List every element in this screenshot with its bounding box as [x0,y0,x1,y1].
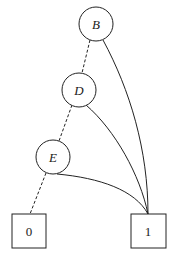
edge-B-D-dashed [82,40,90,73]
terminal-1-label: 1 [145,224,152,239]
edge-D-1-solid [86,105,148,214]
node-D-label: D [73,83,84,98]
node-B: B [79,7,113,41]
edge-E-0-dashed [30,173,46,214]
edge-D-E-dashed [59,105,72,141]
node-E-label: E [48,150,57,165]
edge-E-1-solid [57,174,148,214]
node-D: D [62,73,96,107]
bdd-diagram: B D E 0 1 [0,0,177,258]
edge-B-1-solid [103,40,148,214]
node-E: E [36,140,70,174]
terminal-0: 0 [12,214,46,248]
node-B-label: B [92,17,100,32]
terminal-0-label: 0 [26,224,33,239]
terminal-1: 1 [131,214,166,248]
